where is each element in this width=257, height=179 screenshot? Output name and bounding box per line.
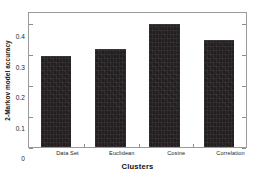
x-tick-label-correlation: Correlation: [216, 150, 244, 156]
y-tick-mark: [29, 117, 33, 118]
y-tick-label: 0.4: [16, 33, 25, 40]
y-tick-mark: [29, 148, 33, 149]
y-axis-tick-labels: 0 0.1 0.2 0.3 0.4: [0, 12, 25, 148]
bar-euclidean: [95, 49, 126, 147]
bar-correlation: [204, 40, 235, 147]
x-tick-label-euclidean: Euclidean: [109, 150, 134, 156]
x-tick-mark: [139, 144, 140, 147]
y-tick-mark-right: [242, 24, 246, 25]
y-tick-mark-right: [242, 86, 246, 87]
x-tick-mark: [84, 144, 85, 147]
y-tick-label: 0.3: [16, 63, 25, 70]
y-tick-mark: [29, 86, 33, 87]
x-tick-label-data-set: Data Set: [56, 150, 79, 156]
x-axis-title: Clusters: [28, 162, 247, 171]
bar-data-set: [41, 56, 72, 147]
y-tick-mark: [29, 24, 33, 25]
bar-cosine: [149, 24, 180, 147]
y-tick-mark-right: [242, 148, 246, 149]
bars-layer: [29, 13, 246, 147]
y-tick-mark-right: [242, 117, 246, 118]
x-tick-mark: [193, 144, 194, 147]
y-tick-mark-right: [242, 55, 246, 56]
y-tick-mark: [29, 55, 33, 56]
y-tick-label: 0.1: [16, 124, 25, 131]
bar-chart-figure: 2-Markov model accuracy 0 0.1 0.2 0.3 0.…: [0, 0, 257, 179]
plot-area: [28, 12, 247, 148]
y-tick-label: 0: [21, 155, 25, 162]
y-tick-label: 0.2: [16, 94, 25, 101]
x-tick-label-cosine: Cosine: [167, 150, 185, 156]
